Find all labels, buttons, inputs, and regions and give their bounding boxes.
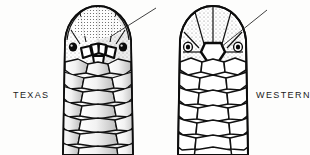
eye-left-texas bbox=[69, 42, 77, 51]
illustration-canvas: TEXAS WESTERN bbox=[0, 0, 310, 155]
eye-right-texas bbox=[119, 42, 127, 51]
body-scales-texas bbox=[59, 59, 137, 155]
figure-western bbox=[155, 0, 275, 155]
eye-right-western bbox=[236, 45, 240, 50]
caption-texas: TEXAS bbox=[13, 90, 50, 100]
body-scales-western bbox=[174, 58, 252, 155]
eye-highlight-left-texas bbox=[71, 44, 73, 46]
eye-left-western bbox=[186, 45, 190, 50]
eye-highlight-right-texas bbox=[121, 44, 123, 46]
figure-texas bbox=[38, 0, 158, 155]
caption-western: WESTERN bbox=[256, 90, 310, 100]
